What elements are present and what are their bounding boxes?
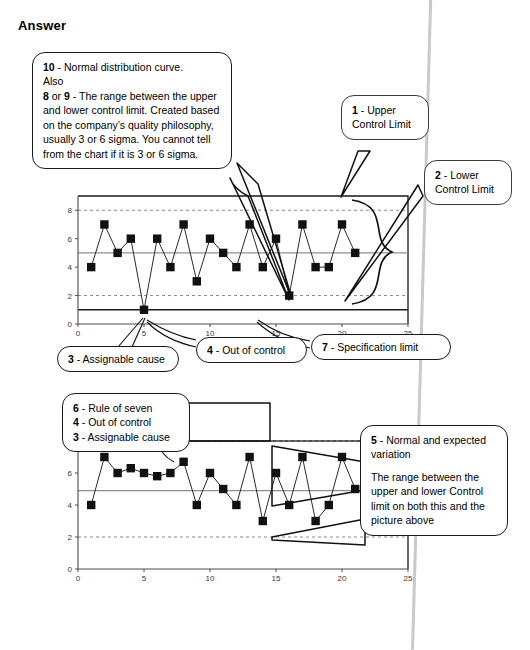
leader-note3: [118, 318, 143, 347]
leader-note4-b: [147, 322, 196, 347]
leader-note10-a: [237, 163, 292, 299]
callout-3-text: - Assignable cause: [74, 353, 165, 365]
callout-10-also: Also: [43, 75, 63, 87]
leader-note10-b: [230, 178, 289, 300]
leader-note1: [341, 151, 370, 197]
callout-specification-limit[interactable]: 7 - Specification limit: [311, 334, 451, 360]
callout-out-of-control-upper[interactable]: 4 - Out of control: [196, 337, 307, 363]
callout-1-text: - Upper Control Limit: [352, 104, 411, 130]
leader-note3-b: [132, 318, 145, 347]
callout-g2-text2: - Out of control: [79, 416, 151, 428]
normal-distribution-curve: [352, 200, 392, 304]
callout-10-or: or: [49, 90, 64, 102]
callout-10-text3: - The range between the upper and lower …: [43, 90, 219, 160]
leader-note2: [345, 185, 423, 301]
callout-10-text1: - Normal distribution curve.: [55, 61, 183, 73]
leader-note5-a: [272, 446, 365, 506]
leader-note4: [147, 320, 196, 340]
callout-normal-expected-variation[interactable]: 5 - Normal and expected variation The ra…: [360, 425, 508, 536]
callout-lower-control-limit[interactable]: 2 - Lower Control Limit: [424, 160, 512, 205]
callout-assignable-cause-upper[interactable]: 3 - Assignable cause: [57, 346, 179, 372]
callout-5-title: - Normal and expected variation: [371, 434, 486, 460]
callout-normal-distribution-note[interactable]: 10 - Normal distribution curve. Also 8 o…: [32, 52, 232, 169]
callout-7-text: - Specification limit: [328, 341, 418, 353]
callout-5-spacer: [371, 462, 498, 470]
callout-10-num: 10: [43, 61, 55, 73]
callout-rule-of-seven-group[interactable]: 6 - Rule of seven 4 - Out of control 3 -…: [62, 393, 190, 452]
callout-upper-control-limit[interactable]: 1 - Upper Control Limit: [341, 95, 429, 140]
callout-g2-text3: - Assignable cause: [79, 431, 170, 443]
leader-note5-b: [272, 519, 365, 545]
callout-5-body: The range between the upper and lower Co…: [371, 471, 485, 526]
callout-2-text: - Lower Control Limit: [435, 169, 494, 195]
callout-g2-text1: - Rule of seven: [79, 402, 153, 414]
callout-4-text: - Out of control: [213, 344, 285, 356]
